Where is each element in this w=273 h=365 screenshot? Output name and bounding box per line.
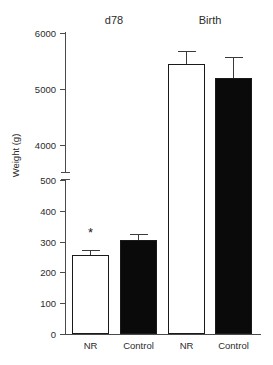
y-axis-spine-lower <box>65 179 66 335</box>
bar-d78-control <box>120 240 157 334</box>
y-tick-mark <box>60 180 66 181</box>
y-tick-label: 100 <box>0 298 56 309</box>
y-tick-mark <box>60 89 66 90</box>
error-bar-cap <box>130 234 148 235</box>
bar-d78-nr <box>72 255 109 334</box>
y-tick-label: 500 <box>0 175 56 186</box>
bar-birth-nr <box>168 64 205 334</box>
error-bar-cap <box>225 57 243 58</box>
y-tick-mark <box>60 33 66 34</box>
error-bar-cap <box>82 250 100 251</box>
y-tick-label: 4000 <box>0 140 56 151</box>
y-tick-mark <box>60 145 66 146</box>
y-tick-label: 200 <box>0 267 56 278</box>
error-bar-stem <box>233 57 234 78</box>
axis-break-cap-upper <box>61 172 70 173</box>
group-title-birth: Birth <box>168 14 252 26</box>
group-title-d78: d78 <box>72 14 156 26</box>
error-bar-cap <box>178 51 196 52</box>
bar-chart: d78 Birth Weight (g) 6000500040005004003… <box>0 0 273 365</box>
y-tick-label: 6000 <box>0 28 56 39</box>
y-tick-mark <box>60 303 66 304</box>
y-axis-spine-upper <box>65 32 66 173</box>
y-tick-mark <box>60 242 66 243</box>
y-tick-label: 0 <box>0 329 56 340</box>
significance-star: * <box>84 226 98 239</box>
x-axis-baseline <box>65 334 261 335</box>
y-tick-mark <box>60 334 66 335</box>
y-tick-label: 400 <box>0 206 56 217</box>
x-tick-label: Control <box>204 340 264 351</box>
y-tick-mark <box>60 272 66 273</box>
y-tick-mark <box>60 211 66 212</box>
bar-birth-control <box>215 78 252 334</box>
y-tick-label: 300 <box>0 237 56 248</box>
error-bar-stem <box>186 51 187 64</box>
y-tick-label: 5000 <box>0 84 56 95</box>
